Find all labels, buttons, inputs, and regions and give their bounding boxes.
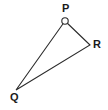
geometry-figure: P R Q [0, 0, 108, 110]
triangle-shape [16, 21, 90, 90]
vertex-label-p: P [62, 3, 69, 14]
vertex-label-q: Q [10, 92, 19, 103]
vertex-label-r: R [93, 39, 101, 50]
vertex-marker-p-icon [62, 18, 68, 24]
